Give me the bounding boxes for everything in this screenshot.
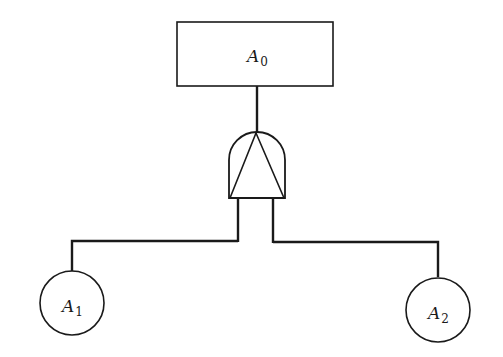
basic-event-a1: A1 <box>40 271 104 335</box>
connector-gate-to-a2 <box>273 242 438 277</box>
basic-event-a2: A2 <box>406 278 470 342</box>
and-gate-icon <box>229 132 285 198</box>
top-event-a0: A0 <box>177 22 333 86</box>
connector-gate-to-a1 <box>72 241 238 271</box>
fault-tree-diagram: A0 A1 A2 <box>0 0 503 357</box>
gate-outline <box>229 132 285 198</box>
